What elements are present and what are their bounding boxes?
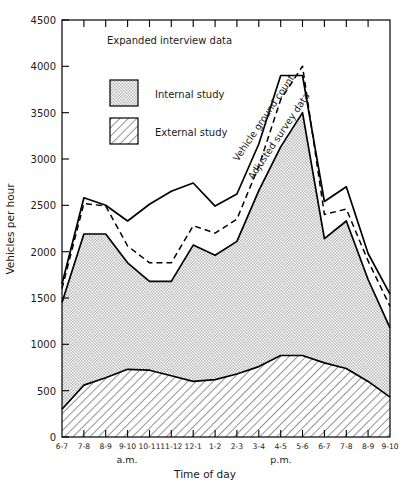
x-tick-label: 7-8: [340, 442, 353, 451]
x-tick-label: 3-4: [253, 442, 266, 451]
legend-swatch-external-study: [110, 118, 138, 144]
x-tick-label: 9-10: [381, 442, 398, 451]
x-tick-label: 8-9: [362, 442, 375, 451]
x-tick-label: 12-1: [185, 442, 202, 451]
x-tick-label: 9-10: [119, 442, 136, 451]
x-tick-label: 2-3: [231, 442, 244, 451]
legend-title: Expanded interview data: [107, 35, 232, 46]
x-axis-title: Time of day: [173, 468, 236, 480]
y-tick-label: 4000: [31, 61, 56, 72]
x-tick-label: 8-9: [99, 442, 112, 451]
y-tick-label: 2000: [31, 247, 56, 258]
x-axis-tick-labels: 6-7 7-8 8-9 9-10 10-11 11-12 12-1 1-2 2-…: [56, 442, 399, 451]
y-tick-label: 500: [37, 386, 56, 397]
y-tick-label: 3500: [31, 108, 56, 119]
chart-figure: 0 500 1000 1500 2000 2500 3000 3500 4000…: [0, 0, 420, 485]
vehicles-per-hour-chart: 0 500 1000 1500 2000 2500 3000 3500 4000…: [0, 0, 420, 485]
x-tick-label: 11-12: [160, 442, 182, 451]
legend-swatch-internal-study: [110, 80, 138, 106]
period-label-am: a.m.: [116, 454, 137, 465]
legend-label-internal-study: Internal study: [155, 89, 225, 100]
y-tick-label: 2500: [31, 200, 56, 211]
legend-label-external-study: External study: [155, 127, 227, 138]
x-tick-label: 6-7: [56, 442, 69, 451]
y-tick-label: 4500: [31, 15, 56, 26]
x-tick-label: 6-7: [318, 442, 331, 451]
x-tick-label: 10-11: [138, 442, 160, 451]
y-tick-label: 1500: [31, 293, 56, 304]
x-tick-label: 4-5: [274, 442, 287, 451]
x-tick-label: 5-6: [296, 442, 309, 451]
y-tick-label: 3000: [31, 154, 56, 165]
y-tick-label: 1000: [31, 339, 56, 350]
y-axis-title: Vehicles per hour: [4, 183, 16, 275]
x-tick-label: 1-2: [209, 442, 222, 451]
x-tick-label: 7-8: [78, 442, 91, 451]
period-label-pm: p.m.: [270, 454, 291, 465]
y-axis-tick-labels: 0 500 1000 1500 2000 2500 3000 3500 4000…: [31, 15, 56, 443]
